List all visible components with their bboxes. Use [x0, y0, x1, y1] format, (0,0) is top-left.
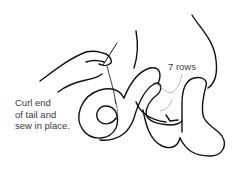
thread [107, 66, 116, 104]
caption-line: sew in place. [15, 120, 70, 132]
illustration: Curl end of tail and sew in place. 7 row… [0, 0, 243, 179]
hand-icon [40, 51, 111, 92]
instruction-caption: Curl end of tail and sew in place. [15, 97, 70, 132]
caption-line: Curl end [15, 97, 70, 109]
rows-annotation: 7 rows [168, 61, 196, 73]
caption-line: of tail and [15, 109, 70, 121]
toy-tail-drawing [0, 0, 243, 179]
